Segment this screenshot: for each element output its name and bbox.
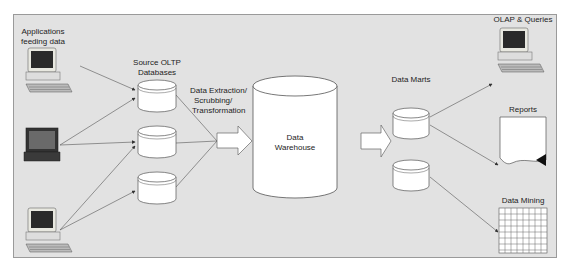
extraction-label-line1: Data Extraction/ <box>190 86 247 96</box>
olap-text: OLAP & Queries <box>494 15 553 24</box>
desktop-computer-icon <box>26 208 72 252</box>
data-mining-label: Data Mining <box>497 196 549 206</box>
applications-label-line2: feeding data <box>18 37 68 47</box>
warehouse-label: Data Warehouse <box>265 133 325 153</box>
source-oltp-label-line1: Source OLTP <box>130 58 184 68</box>
reports-label: Reports <box>500 105 546 115</box>
reports-text: Reports <box>509 105 537 114</box>
applications-label: Applications feeding data <box>18 27 68 47</box>
source-oltp-label-line2: Databases <box>130 68 184 78</box>
extraction-label-line3: Transformation <box>190 106 247 116</box>
extraction-label: Data Extraction/ Scrubbing/ Transformati… <box>190 86 247 116</box>
source-oltp-label: Source OLTP Databases <box>130 58 184 78</box>
data-mining-grid-icon <box>499 208 547 253</box>
reports-document-icon <box>500 117 546 166</box>
olap-terminal-icon <box>498 28 544 72</box>
applications-label-line1: Applications <box>18 27 68 37</box>
data-marts-label: Data Marts <box>388 75 434 85</box>
warehouse-label-line2: Warehouse <box>265 143 325 153</box>
data-mart-2-icon <box>393 160 429 191</box>
oltp-database-1-icon <box>138 80 176 112</box>
extraction-arrow-icon <box>217 126 252 155</box>
data-mart-1-icon <box>393 108 429 139</box>
olap-label: OLAP & Queries <box>493 15 553 25</box>
desktop-computer-icon <box>26 48 72 92</box>
extraction-label-line2: Scrubbing/ <box>190 96 247 106</box>
distribution-arrow-icon <box>361 125 391 157</box>
laptop-icon <box>24 128 60 161</box>
oltp-database-3-icon <box>138 172 176 204</box>
data-mining-text: Data Mining <box>502 196 545 205</box>
oltp-database-2-icon <box>138 126 176 158</box>
warehouse-label-line1: Data <box>265 133 325 143</box>
data-marts-text: Data Marts <box>391 75 430 84</box>
